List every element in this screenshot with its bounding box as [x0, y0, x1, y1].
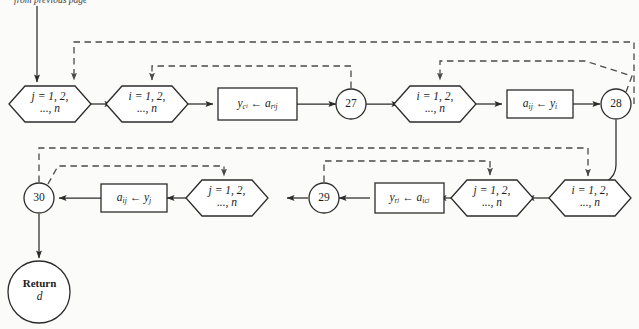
loopback-30-to-hexj2 — [48, 166, 224, 184]
loopback-27-to-hexi1 — [152, 66, 351, 88]
terminal-return-shape[interactable] — [8, 261, 70, 323]
solid-edges — [37, 6, 616, 258]
edge-28-to-hexi-bot — [597, 120, 616, 188]
hexagon-i-bot-shape[interactable] — [549, 180, 631, 216]
connector-29-shape[interactable] — [309, 183, 339, 213]
process-box-aij-yi-shape[interactable] — [507, 90, 573, 118]
process-box-aij-yj-shape[interactable] — [101, 184, 167, 212]
process-box-yr-shape[interactable] — [375, 183, 444, 213]
hexagon-j-top-shape[interactable] — [9, 86, 91, 122]
connector-30-shape[interactable] — [24, 183, 54, 213]
loopback-28-to-hexi2 — [440, 61, 632, 92]
process-box-yc-shape[interactable] — [218, 88, 297, 120]
node-shapes — [8, 86, 631, 323]
loopback-30-to-hexi-bot — [39, 148, 588, 182]
hexagon-j-bot2-shape[interactable] — [186, 180, 268, 216]
hexagon-i-top1-shape[interactable] — [106, 86, 188, 122]
hexagon-j-bot1-shape[interactable] — [451, 180, 533, 216]
hexagon-i-top2-shape[interactable] — [394, 86, 476, 122]
flowchart-canvas — [0, 0, 639, 329]
connector-28-shape[interactable] — [601, 89, 631, 119]
loopback-29-to-hexj1 — [324, 161, 490, 182]
flowchart-figure: from previous page j = 1, 2, ..., n i = … — [0, 0, 639, 329]
connector-27-shape[interactable] — [336, 89, 366, 119]
